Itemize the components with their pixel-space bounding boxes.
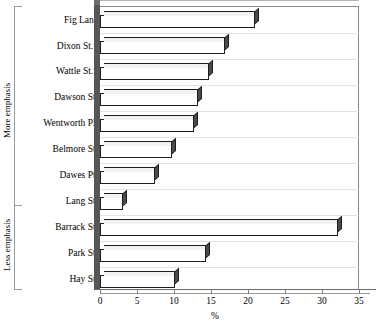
row-separator xyxy=(100,111,359,112)
category-label: Barrack St. xyxy=(18,222,98,232)
bar xyxy=(100,223,338,236)
bar-top-face xyxy=(104,245,207,250)
category-label: Lang St. xyxy=(18,196,98,206)
x-axis-front-edge xyxy=(100,293,370,294)
category-label: Hay St. xyxy=(18,274,98,284)
bar-top-face xyxy=(104,167,156,172)
group-axis-tick xyxy=(14,289,22,290)
x-axis-tick xyxy=(174,289,175,294)
bar-top-face xyxy=(104,37,226,42)
x-axis-tick-label: 5 xyxy=(122,296,152,306)
category-label: Fig Lane xyxy=(18,15,98,25)
category-label: Dixon St.* xyxy=(18,41,98,51)
x-axis-tick-label: 20 xyxy=(233,296,263,306)
bar-top-face xyxy=(104,219,339,224)
row-separator xyxy=(100,33,359,34)
bar-top-face xyxy=(104,11,256,16)
bar xyxy=(100,197,123,210)
x-axis-tick-label: 25 xyxy=(270,296,300,306)
group-label-less-emphasis: Less emphasis xyxy=(0,205,14,285)
bar xyxy=(100,171,155,184)
row-separator xyxy=(100,163,359,164)
x-axis-tick-label: 10 xyxy=(159,296,189,306)
row-separator xyxy=(100,137,359,138)
plot-area xyxy=(100,6,359,289)
x-axis-tick-label: 35 xyxy=(344,296,374,306)
axis-side-wall-top xyxy=(94,0,100,5)
bar xyxy=(100,15,255,28)
row-separator xyxy=(100,59,359,60)
bar xyxy=(100,41,225,54)
row-separator xyxy=(100,85,359,86)
x-axis-tick xyxy=(285,289,286,294)
row-separator xyxy=(100,189,359,190)
bar-top-face xyxy=(104,193,124,198)
bar xyxy=(100,145,172,158)
row-separator xyxy=(100,215,359,216)
bar-top-face xyxy=(104,115,195,120)
bar-top-face xyxy=(104,271,176,276)
bar-top-face xyxy=(104,89,199,94)
bar xyxy=(100,275,175,288)
x-axis-tick-label: 15 xyxy=(196,296,226,306)
x-axis-tick xyxy=(248,289,249,294)
x-axis-title: % xyxy=(0,311,386,321)
bar-top-face xyxy=(104,141,173,146)
category-label: Belmore St. xyxy=(18,144,98,154)
bar xyxy=(100,93,198,106)
x-axis-tick xyxy=(100,289,101,294)
x-axis-tick xyxy=(359,289,360,294)
bar xyxy=(100,249,206,262)
group-label-more-emphasis: More emphasis xyxy=(0,30,14,190)
x-axis-tick xyxy=(137,289,138,294)
bar xyxy=(100,67,209,80)
x-axis-tick xyxy=(211,289,212,294)
bar-top-face xyxy=(104,63,210,68)
group-axis-tick xyxy=(14,6,22,7)
row-separator xyxy=(100,267,359,268)
x-axis-tick-label: 30 xyxy=(307,296,337,306)
category-label: Dawes Pt. xyxy=(18,170,98,180)
x-axis-title-text: % xyxy=(211,311,219,321)
x-axis-tick-label: 0 xyxy=(85,296,115,306)
category-label: Park St. xyxy=(18,248,98,258)
group-axis-line xyxy=(14,6,15,289)
bar-chart: More emphasis Less emphasis Fig Lane Dix… xyxy=(0,0,386,331)
category-label: Dawson St. xyxy=(18,92,98,102)
bar xyxy=(100,119,194,132)
x-axis-tick xyxy=(322,289,323,294)
category-label: Wattle St.* xyxy=(18,66,98,76)
row-separator xyxy=(100,241,359,242)
category-label: Wentworth Pl. xyxy=(18,118,98,128)
